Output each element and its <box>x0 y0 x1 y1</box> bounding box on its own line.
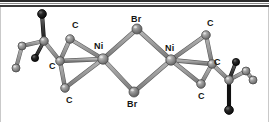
atom-label-c-5: C <box>49 62 56 71</box>
atom-Br2 <box>129 87 139 97</box>
atom-label-ni-4: Ni <box>165 44 174 53</box>
bond-Ni1-Br2 <box>103 59 134 92</box>
atom-C1 <box>66 35 75 44</box>
atom-C4 <box>202 31 211 40</box>
atom-Br1 <box>132 24 142 34</box>
atom-L1 <box>40 37 49 46</box>
figure-root: CBrCNiNiCCCCBr <box>0 0 269 122</box>
atom-highlight <box>14 66 16 68</box>
atom-highlight <box>244 69 246 71</box>
atom-LD2 <box>31 54 38 61</box>
atom-highlight <box>67 37 70 39</box>
atom-highlight <box>33 56 35 58</box>
atom-Ni1 <box>98 54 108 64</box>
atom-label-c-7: C <box>66 96 73 105</box>
atom-Ni2 <box>166 55 176 65</box>
atom-highlight <box>198 82 201 84</box>
atom-RD1 <box>225 106 234 115</box>
atom-highlight <box>57 59 60 61</box>
atom-highlight <box>203 33 206 35</box>
atom-RD2 <box>232 58 239 65</box>
atom-highlight <box>20 44 22 46</box>
atom-C3 <box>61 84 70 93</box>
atom-highlight <box>62 86 65 88</box>
atom-highlight <box>226 78 229 80</box>
atom-highlight <box>41 39 44 41</box>
atom-highlight <box>234 60 236 62</box>
atom-label-c-0: C <box>72 21 79 30</box>
atom-label-c-2: C <box>207 19 214 28</box>
atom-label-br-1: Br <box>131 15 141 24</box>
atom-L3 <box>12 64 20 72</box>
bond-Ni2-Br2 <box>134 60 171 92</box>
atom-label-c-6: C <box>214 58 221 67</box>
atom-highlight <box>134 26 137 28</box>
atom-highlight <box>168 57 171 59</box>
bond-Ni1-C3 <box>65 59 103 88</box>
atom-highlight <box>251 78 253 80</box>
atom-L2 <box>18 42 26 50</box>
atom-C6 <box>197 80 206 89</box>
atom-highlight <box>209 62 212 64</box>
atom-label-br-9: Br <box>127 100 137 109</box>
atom-R3 <box>249 76 257 84</box>
bond-Ni1-C2 <box>60 59 103 61</box>
atom-highlight <box>100 56 103 58</box>
atom-R1 <box>225 76 234 85</box>
atom-highlight <box>226 107 229 109</box>
bond-Ni1-Br1 <box>103 29 137 59</box>
atom-highlight <box>39 11 42 13</box>
atom-highlight <box>131 89 134 91</box>
atom-label-c-8: C <box>198 92 205 101</box>
atom-LD1 <box>38 10 47 19</box>
atom-C2 <box>56 57 65 66</box>
atom-label-ni-3: Ni <box>94 42 103 51</box>
atom-R2 <box>242 67 250 75</box>
bond-Ni2-C4 <box>171 35 206 60</box>
